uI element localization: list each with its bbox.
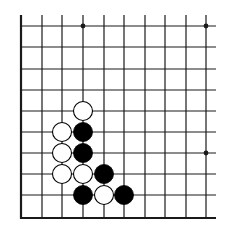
white-stone (95, 186, 114, 205)
star-point (81, 24, 86, 29)
black-stone (74, 186, 93, 205)
black-stone (115, 186, 134, 205)
white-stone (53, 165, 72, 184)
star-point (204, 24, 209, 29)
white-stone (53, 123, 72, 142)
star-point (204, 151, 209, 156)
black-stone (74, 123, 93, 142)
white-stone (74, 165, 93, 184)
go-board (0, 0, 232, 235)
white-stone (53, 144, 72, 163)
black-stone (74, 144, 93, 163)
black-stone (95, 165, 114, 184)
white-stone (74, 102, 93, 121)
